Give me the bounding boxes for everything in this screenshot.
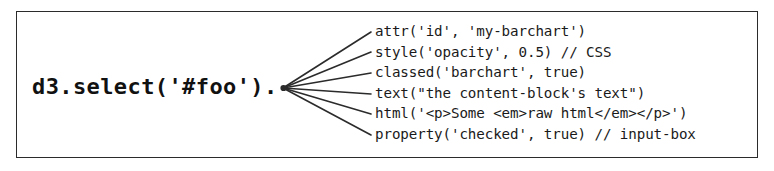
root-selection-call: d3.select('#foo').: [32, 74, 278, 100]
method-item-html: html('<p>Some <em>raw html</em></p>'): [375, 103, 755, 124]
method-item-attr: attr('id', 'my-barchart'): [375, 21, 755, 42]
method-item-style: style('opacity', 0.5) // CSS: [375, 42, 755, 63]
diagram-figure: d3.select('#foo'). attr('id', 'my-barcha…: [0, 0, 774, 171]
method-list: attr('id', 'my-barchart') style('opacity…: [375, 21, 755, 145]
method-item-property: property('checked', true) // input-box: [375, 124, 755, 145]
method-item-classed: classed('barchart', true): [375, 62, 755, 83]
method-item-text: text("the content-block's text"): [375, 83, 755, 104]
